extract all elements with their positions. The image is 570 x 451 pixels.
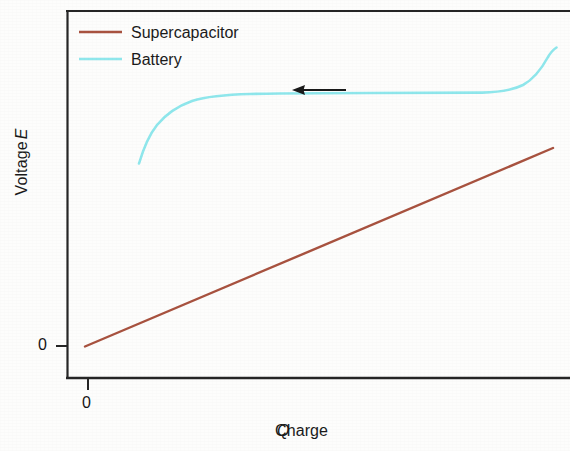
y-axis-title-text: Voltage — [13, 141, 31, 195]
series-line-battery — [139, 48, 557, 164]
legend-label-supercapacitor: Supercapacitor — [131, 24, 239, 42]
legend-swatches — [79, 32, 122, 59]
x-axis-tick-label-zero: 0 — [82, 394, 91, 412]
series-line-supercapacitor — [85, 148, 553, 347]
tick-marks — [56, 346, 88, 390]
chart-canvas — [0, 0, 570, 451]
legend-label-battery: Battery — [131, 51, 182, 69]
y-axis-title: VoltageE — [13, 107, 37, 217]
figure-container: Supercapacitor Battery 0 0 VoltageE Char… — [0, 0, 570, 451]
y-axis-title-variable: E — [13, 129, 31, 142]
series-group — [85, 48, 557, 347]
x-axis-title-variable: Q — [275, 422, 290, 440]
y-axis-tick-label-zero: 0 — [38, 336, 47, 354]
